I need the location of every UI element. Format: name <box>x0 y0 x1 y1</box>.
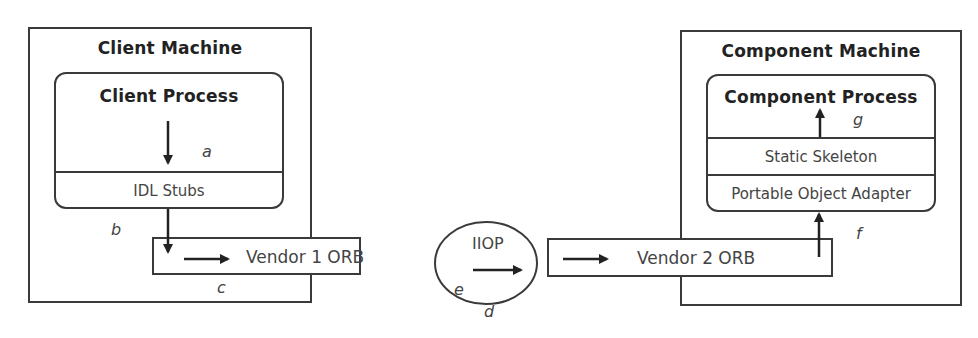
step-label-c: c <box>217 278 226 297</box>
iiop-label: IIOP <box>472 234 504 253</box>
step-label-f: f <box>856 224 862 243</box>
connector-layer <box>0 0 978 338</box>
step-label-e: e <box>454 280 464 299</box>
step-label-g: g <box>853 110 863 129</box>
step-label-b: b <box>111 220 121 239</box>
step-label-a: a <box>202 142 212 161</box>
step-label-d: d <box>484 302 494 321</box>
